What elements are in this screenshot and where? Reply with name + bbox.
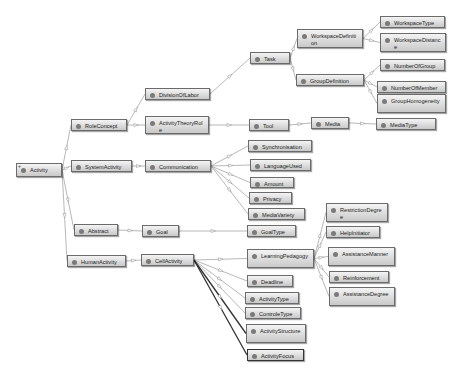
node-label: Abstract — [88, 228, 109, 234]
node-communication[interactable]: Communication — [145, 160, 211, 172]
node-tool[interactable]: Tool — [249, 119, 289, 131]
class-icon — [334, 292, 339, 297]
node-label: LearningPedagogy — [261, 253, 308, 259]
node-label: ActivityFocus — [261, 353, 294, 359]
node-amount[interactable]: Amount — [250, 177, 294, 188]
node-activitytype[interactable]: ActivityType — [245, 292, 299, 304]
node-workspacedefinition[interactable]: WorkspaceDefinition — [297, 29, 363, 48]
node-cellactivity[interactable]: CellActivity — [141, 254, 194, 266]
arrowhead-icon — [369, 39, 374, 42]
node-goaltype[interactable]: GoalType — [247, 225, 296, 237]
node-label: WorkspaceDistance — [394, 37, 441, 50]
node-label: RestrictionDegree — [340, 207, 382, 220]
node-label: ControleType — [259, 311, 292, 317]
node-helpinitiator[interactable]: HelpInitiator — [326, 226, 380, 238]
class-icon — [302, 34, 307, 39]
arrowhead-icon — [218, 258, 223, 261]
arrowhead-icon — [66, 198, 69, 203]
node-deadline[interactable]: Deadline — [247, 275, 293, 287]
class-icon — [382, 86, 387, 91]
node-abstract[interactable]: Abstract — [74, 224, 118, 236]
node-label: NumberOfMember — [391, 85, 437, 91]
class-icon — [150, 93, 155, 98]
node-goal[interactable]: Goal — [142, 225, 179, 237]
node-label: MediaVariety — [262, 212, 294, 218]
node-activity[interactable]: +Activity — [16, 163, 62, 177]
class-icon — [147, 230, 152, 235]
node-humanactivity[interactable]: HumanActivity — [67, 255, 126, 267]
node-numberofmember[interactable]: NumberOfMember — [377, 81, 446, 93]
node-roleconcept[interactable]: RoleConcept — [71, 119, 127, 131]
node-label: CellActivity — [155, 258, 182, 264]
node-mediavariety[interactable]: MediaVariety — [248, 208, 305, 220]
class-icon — [250, 312, 255, 317]
node-label: HelpInitiator — [340, 230, 370, 236]
arrowhead-icon — [218, 305, 222, 310]
node-languageused[interactable]: LanguageUsed — [250, 159, 311, 171]
node-restrictiondegree[interactable]: RestrictionDegree — [326, 203, 388, 222]
class-icon — [79, 229, 84, 234]
arrowhead-icon — [318, 243, 321, 248]
node-activitystructure[interactable]: ActivityStructure — [246, 324, 306, 343]
class-icon — [316, 122, 321, 127]
node-privacy[interactable]: Privacy — [249, 192, 292, 204]
class-icon — [382, 99, 387, 104]
node-label: GroupHomogeneity — [391, 98, 440, 104]
class-icon — [334, 276, 339, 281]
node-learningpedagogy[interactable]: LearningPedagogy — [247, 249, 314, 268]
node-label: HumanActivity — [81, 259, 117, 265]
node-controletype[interactable]: ControleType — [245, 307, 301, 319]
node-divisionoflabor[interactable]: DivisionOfLabor — [145, 88, 210, 100]
arrowhead-icon — [65, 145, 68, 150]
arrowhead-icon — [360, 122, 365, 125]
class-icon — [333, 252, 338, 257]
arrowhead-icon — [291, 46, 294, 51]
arrowhead-icon — [227, 155, 232, 158]
node-mediatype[interactable]: MediaType — [376, 118, 436, 130]
node-activityfocus[interactable]: ActivityFocus — [247, 349, 304, 361]
node-workspacedistance[interactable]: WorkspaceDistance — [380, 33, 446, 52]
class-icon — [252, 280, 257, 285]
node-label: AssistanceDegree — [343, 291, 388, 297]
class-icon — [252, 354, 257, 359]
node-reinforcement[interactable]: Reinforcement — [329, 271, 389, 283]
node-assistancedegree[interactable]: AssistanceDegree — [329, 287, 395, 306]
node-label: WorkspaceType — [394, 20, 434, 26]
arrowhead-icon — [128, 229, 133, 232]
node-grouphomogeneity[interactable]: GroupHomogeneity — [377, 94, 446, 113]
class-icon — [253, 213, 258, 218]
node-task[interactable]: Task — [250, 52, 290, 64]
node-label: Task — [264, 56, 276, 62]
node-assistancemanner[interactable]: AssistanceManner — [328, 247, 395, 266]
node-label: AssistanceManner — [342, 251, 388, 257]
class-icon — [381, 123, 386, 128]
node-numberofgroup[interactable]: NumberOfGroup — [380, 59, 445, 71]
arrowhead-icon — [218, 268, 223, 271]
class-icon — [385, 38, 390, 43]
class-icon — [252, 230, 257, 235]
node-workspacetype[interactable]: WorkspaceType — [380, 16, 445, 28]
arrowhead-icon — [64, 167, 69, 170]
arrowhead-icon — [298, 123, 303, 126]
class-icon — [72, 260, 77, 265]
node-systemactivity[interactable]: SystemActivity — [71, 160, 132, 172]
class-icon — [331, 231, 336, 236]
arrowhead-icon — [319, 256, 324, 259]
class-icon — [146, 259, 151, 264]
node-media[interactable]: Media — [311, 117, 349, 129]
class-icon — [150, 165, 155, 170]
class-icon — [385, 64, 390, 69]
node-label: GroupDefinition — [310, 78, 349, 84]
arrowhead-icon — [63, 213, 66, 218]
node-label: LanguageUsed — [264, 163, 302, 169]
node-synchronisation[interactable]: Synchronisation — [248, 140, 312, 152]
node-activitytheoryrole[interactable]: ActivityTheoryRole — [145, 116, 209, 134]
node-label: Amount — [264, 181, 283, 187]
arrowhead-icon — [319, 275, 322, 280]
node-groupdefinition[interactable]: GroupDefinition — [296, 74, 364, 86]
edge-layer — [0, 0, 463, 378]
class-icon — [252, 254, 257, 259]
class-icon — [21, 168, 26, 173]
class-icon — [254, 124, 259, 129]
node-label: SystemActivity — [85, 164, 121, 170]
